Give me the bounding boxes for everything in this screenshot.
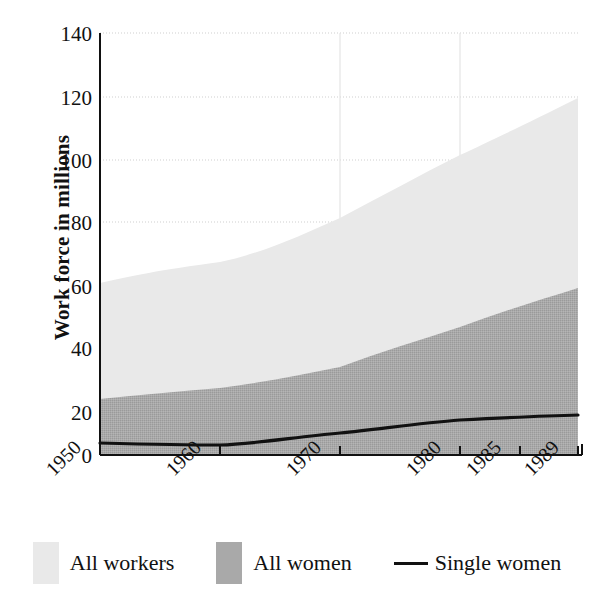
- legend-swatch-all-workers: [33, 542, 59, 584]
- legend-label-all-women: All women: [253, 550, 351, 576]
- legend-line-single-women: [394, 562, 428, 565]
- chart-legend: All workers All women Single women: [0, 533, 594, 593]
- legend-swatch-all-women: [216, 542, 242, 584]
- legend-label-single-women: Single women: [435, 550, 562, 576]
- x-axis-tick-labels: 1950 1960 1970 1980 1985 1989: [0, 455, 594, 525]
- legend-item-all-workers: All workers: [33, 542, 216, 584]
- plot-area: [0, 0, 594, 470]
- legend-label-all-workers: All workers: [70, 550, 174, 576]
- chart-figure: Work force in millions 140 120 100 80 60…: [0, 0, 594, 614]
- chart-canvas: [0, 0, 594, 470]
- legend-item-all-women: All women: [216, 542, 393, 584]
- legend-item-single-women: Single women: [394, 550, 562, 576]
